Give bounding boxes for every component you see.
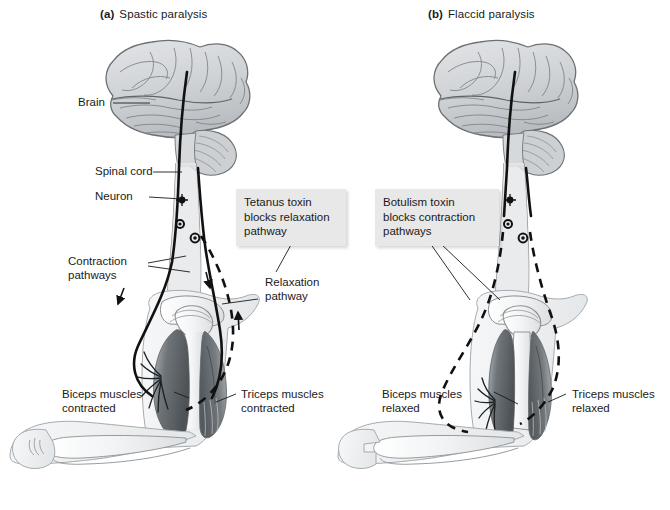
panel-a-tag: (a): [100, 8, 114, 20]
label-neuron: Neuron: [95, 190, 133, 204]
leader-lines-a: [113, 103, 292, 402]
contraction-pathway-a: [134, 72, 222, 398]
forearm-b: [338, 421, 524, 468]
humerus-a: [184, 332, 203, 430]
label-triceps-a: Triceps muscles contracted: [241, 388, 324, 415]
spinal-cord-b: [495, 163, 529, 300]
brain-b: [434, 41, 578, 176]
panel-a-title: (a)Spastic paralysis: [100, 8, 207, 20]
humerus-b: [512, 332, 531, 430]
direction-arrows-a: [118, 272, 239, 330]
shoulder-joint-a: [160, 296, 224, 338]
solid-upper-pathway-b: [504, 72, 531, 216]
label-spinal-cord: Spinal cord: [95, 165, 153, 179]
biceps-a: [138, 330, 189, 438]
panel-b-title-text: Flaccid paralysis: [448, 8, 535, 20]
panel-a-title-text: Spastic paralysis: [119, 8, 207, 20]
label-triceps-b: Triceps muscles relaxed: [572, 388, 655, 415]
panel-b-title: (b)Flaccid paralysis: [428, 8, 535, 20]
callout-tetanus-toxin: Tetanus toxin blocks relaxation pathway: [236, 189, 346, 246]
synapse-markers-b: [504, 194, 527, 242]
arm-outline-b: [470, 290, 587, 448]
shoulder-joint-b: [488, 296, 552, 338]
brain-a: [106, 41, 250, 176]
arm-outline-a: [142, 290, 259, 448]
callout-botulism-toxin: Botulism toxin blocks contraction pathwa…: [375, 189, 499, 246]
label-biceps-a: Biceps muscles contracted: [62, 388, 142, 415]
figure-root: (a)Spastic paralysis Brain Spinal cord N…: [0, 0, 670, 510]
biceps-b: [475, 330, 515, 441]
panel-b-tag: (b): [428, 8, 443, 20]
label-brain: Brain: [78, 96, 105, 110]
label-contraction-pathways: Contraction pathways: [68, 255, 127, 282]
leader-lines-b: [430, 243, 566, 404]
synapse-markers-a: [176, 194, 199, 242]
spinal-cord-a: [167, 163, 201, 300]
triceps-b: [529, 331, 552, 439]
relaxation-pathway-a: [186, 236, 233, 410]
panel-b-art: [338, 41, 587, 469]
forearm-a: [10, 421, 196, 468]
triceps-a: [200, 331, 227, 437]
label-relaxation-pathway: Relaxation pathway: [265, 276, 319, 303]
label-biceps-b: Biceps muscles relaxed: [382, 388, 462, 415]
